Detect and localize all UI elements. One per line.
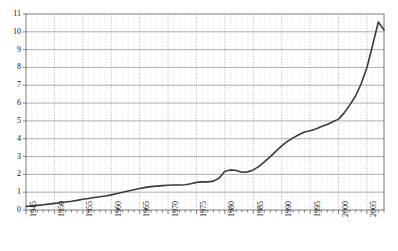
y-axis-label: 5: [17, 117, 21, 125]
y-axis-label: 8: [17, 63, 21, 71]
x-axis-label: 1960: [115, 201, 123, 217]
y-axis-label: 4: [17, 135, 21, 143]
x-axis-label: 1945: [30, 201, 38, 217]
x-axis-label: 1955: [86, 201, 94, 217]
y-axis-label: 11: [13, 10, 21, 18]
x-axis-label: 1970: [172, 201, 180, 217]
plot-frame: [26, 14, 384, 210]
y-axis-label: 10: [13, 28, 21, 36]
x-axis-label: 1950: [58, 201, 66, 217]
y-axis-label: 3: [17, 153, 21, 161]
y-axis-label: 6: [17, 99, 21, 107]
line-chart: 01234567891011 1945195019551960196519701…: [0, 0, 398, 251]
x-axis-label: 1985: [257, 201, 265, 217]
x-axis-label: 2000: [342, 201, 350, 217]
x-axis-label: 1980: [228, 201, 236, 217]
y-axis-label: 7: [17, 81, 21, 89]
y-axis-label: 0: [17, 206, 21, 214]
y-axis-label: 2: [17, 170, 21, 178]
y-axis-label: 1: [17, 188, 21, 196]
x-axis-label: 1965: [143, 201, 151, 217]
x-axis-label: 2005: [370, 201, 378, 217]
y-axis-label: 9: [17, 46, 21, 54]
x-axis-label: 1995: [314, 201, 322, 217]
x-axis-label: 1975: [200, 201, 208, 217]
x-axis-label: 1990: [285, 201, 293, 217]
